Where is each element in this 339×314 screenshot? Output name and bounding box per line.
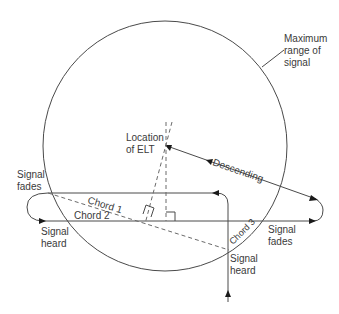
signal-heard-bottom-label: Signal heard [230, 253, 261, 276]
flight-path-left-loop [27, 193, 48, 221]
elt-chord-method-diagram: Maximum range of signal Location of ELT … [0, 0, 339, 314]
elt-location-label: Location of ELT [126, 132, 167, 155]
arrow-top-left [212, 190, 219, 196]
arrow-right-loop-in [309, 195, 318, 201]
signal-fades-left-label: Signal fades [17, 169, 48, 192]
signal-fades-right-label: Signal fades [268, 224, 299, 247]
arrow-left-loop [39, 218, 46, 224]
max-range-label: Maximum range of signal [284, 33, 330, 68]
arrow-inbound-up [225, 290, 231, 297]
signal-heard-left-label: Signal heard [41, 226, 72, 249]
max-range-circle [43, 21, 287, 271]
right-angle-chord2 [166, 212, 175, 221]
flight-path-right-loop [313, 199, 323, 221]
arrow-bottom-right [309, 218, 316, 224]
max-range-leader [262, 50, 284, 67]
descending-label: Descending [211, 156, 265, 184]
chord2-label: Chord 2 [74, 210, 110, 221]
